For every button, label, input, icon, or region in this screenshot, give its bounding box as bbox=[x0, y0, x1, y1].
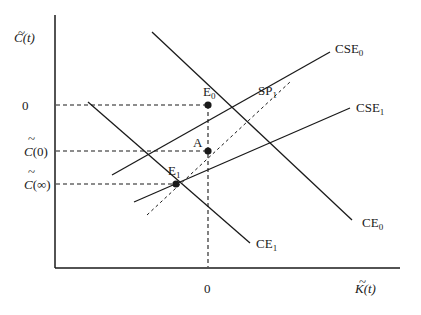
x-axis-label: ~ K(t) bbox=[354, 274, 376, 296]
label-cse1: CSE1 bbox=[356, 100, 384, 117]
y-tick-zero: 0 bbox=[22, 98, 29, 113]
point-a bbox=[204, 147, 211, 154]
y-axis-label: ~ C(t) bbox=[14, 25, 35, 45]
curve-cse0 bbox=[112, 52, 330, 175]
svg-text:C(t): C(t) bbox=[14, 30, 35, 45]
label-ce0: CE0 bbox=[362, 215, 384, 232]
curve-ce0 bbox=[152, 32, 352, 220]
y-tick-cinf: ~ C(∞) bbox=[24, 164, 51, 192]
label-cse0: CSE0 bbox=[335, 41, 364, 58]
svg-text:C(0): C(0) bbox=[24, 144, 48, 159]
label-e0: E0 bbox=[203, 84, 216, 101]
svg-text:C(∞): C(∞) bbox=[24, 177, 51, 192]
svg-text:K(t): K(t) bbox=[354, 281, 376, 296]
label-e1: E1 bbox=[168, 163, 180, 180]
label-sp1: SP1 bbox=[258, 83, 277, 100]
point-e0 bbox=[204, 101, 211, 108]
x-tick-zero: 0 bbox=[204, 281, 211, 296]
curve-sp1 bbox=[147, 82, 290, 215]
y-tick-c0: ~ C(0) bbox=[24, 131, 48, 159]
curves bbox=[88, 32, 352, 243]
diagram-canvas: ~ C(t) ~ K(t) 0 ~ C(0) ~ C(∞) 0 CSE0 CSE… bbox=[0, 0, 421, 315]
label-a: A bbox=[193, 135, 203, 150]
point-e1 bbox=[172, 180, 179, 187]
label-ce1: CE1 bbox=[256, 236, 277, 253]
